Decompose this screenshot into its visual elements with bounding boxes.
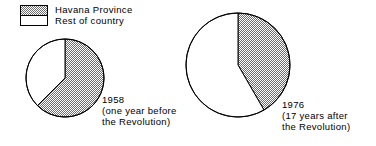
legend-label-rest-of-country: Rest of country xyxy=(55,16,124,27)
caption-1976: 1976 (17 years after the Revolution) xyxy=(282,99,350,133)
pie-chart-1976 xyxy=(184,11,292,119)
legend-item-havana-province: Havana Province xyxy=(20,5,133,16)
legend-item-rest-of-country: Rest of country xyxy=(20,16,133,27)
caption-1958-year: 1958 xyxy=(102,94,177,105)
caption-1958: 1958 (one year before the Revolution) xyxy=(102,94,177,128)
caption-1976-year: 1976 xyxy=(282,99,350,110)
legend-swatch-hatched-icon xyxy=(20,5,48,16)
legend: Havana Province Rest of country xyxy=(20,5,133,26)
pie-chart-figure: Havana Province Rest of country 1958 (on… xyxy=(0,0,376,146)
legend-swatch-white-icon xyxy=(20,16,48,27)
caption-1976-note-line1: (17 years after xyxy=(282,110,350,121)
caption-1976-note-line2: the Revolution) xyxy=(282,121,350,132)
pie-chart-1958 xyxy=(24,37,106,119)
caption-1958-note-line1: (one year before xyxy=(102,105,177,116)
caption-1958-note-line2: the Revolution) xyxy=(102,116,177,127)
legend-label-havana-province: Havana Province xyxy=(55,5,133,16)
